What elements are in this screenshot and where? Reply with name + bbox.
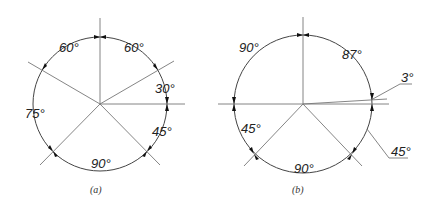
arrowhead	[232, 104, 236, 111]
arrowhead	[48, 145, 53, 151]
angle-label: 87°	[342, 47, 362, 62]
arrowhead	[303, 33, 309, 37]
angle-label: 45°	[241, 121, 261, 136]
angle-label: 60°	[59, 40, 79, 55]
radial-line-3	[303, 99, 387, 104]
radial-line-150	[28, 62, 100, 104]
angle-label: 90°	[294, 161, 314, 176]
arrowhead	[142, 151, 147, 157]
arrowhead	[165, 97, 169, 104]
radial-line-315	[303, 104, 362, 166]
arrowhead	[165, 104, 169, 111]
leader-line-3	[371, 84, 400, 100]
arrowhead	[232, 97, 236, 104]
arrowhead	[94, 35, 100, 39]
angle-label: 45°	[391, 144, 411, 159]
figure-caption: (a)	[90, 184, 102, 196]
arrowhead	[370, 104, 374, 111]
leader-line-45	[367, 129, 389, 158]
angle-label: 90°	[239, 40, 259, 55]
arrowhead	[297, 33, 303, 37]
arrowhead	[53, 151, 58, 157]
angle-label: 75°	[25, 106, 45, 121]
angle-label: 30°	[155, 81, 175, 96]
arrowhead	[100, 35, 106, 39]
diagram-canvas: 60° 60° 30° 45° 90° 75° (a) 90° 87°	[0, 0, 435, 219]
figure-caption: (b)	[292, 184, 304, 196]
figure-a: 60° 60° 30° 45° 90° 75° (a)	[25, 18, 185, 196]
angle-label: 90°	[91, 156, 111, 171]
angle-label: 3°	[401, 70, 413, 85]
figure-b: 90° 87° 3° 45° 90° 45° (b)	[218, 17, 413, 196]
angle-label: 60°	[124, 40, 144, 55]
angle-label: 45°	[152, 124, 172, 139]
arrowhead	[147, 145, 152, 151]
